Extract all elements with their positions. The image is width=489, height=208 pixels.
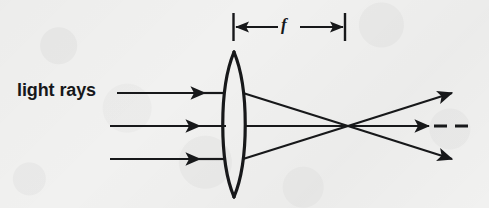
diverging-ray-lower	[348, 126, 452, 159]
lens-diagram-canvas	[0, 0, 489, 208]
incoming-rays-group	[110, 93, 226, 159]
refracted-ray-upper	[243, 93, 348, 126]
refracted-rays-group	[243, 93, 348, 159]
lens-left-surface	[223, 52, 234, 197]
focal-length-dimension	[234, 13, 346, 41]
refracted-ray-lower	[243, 126, 348, 159]
biconvex-lens	[223, 52, 246, 197]
light-rays-label: light rays	[17, 81, 96, 99]
optics-diagram-figure: light rays f	[0, 0, 489, 208]
lens-right-surface	[234, 52, 245, 197]
focal-length-label: f	[281, 16, 287, 33]
diverging-ray-upper	[348, 93, 452, 126]
